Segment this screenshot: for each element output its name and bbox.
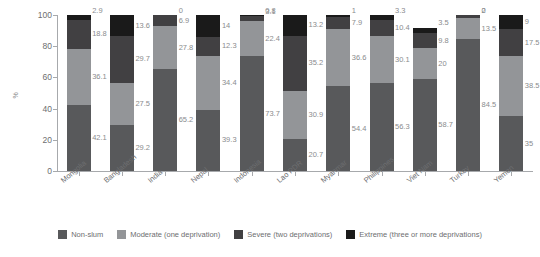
bar-value-label: 22.4 [265, 35, 280, 43]
y-tick-80: 80 [43, 42, 52, 51]
bars-layer: 42.136.118.82.929.227.529.713.665.227.86… [57, 15, 533, 171]
bar-segment [283, 36, 307, 91]
bar-group[interactable] [413, 15, 437, 171]
legend-swatch-icon [117, 230, 126, 239]
bar-value-label: 58.7 [438, 121, 453, 129]
bar-value-label: 12.3 [222, 42, 237, 50]
bar-value-label: 20 [438, 60, 446, 68]
bar-stack [370, 15, 394, 171]
bar-segment [283, 15, 307, 36]
bar-group[interactable] [196, 15, 220, 171]
x-tickmark [468, 172, 469, 176]
bar-segment [240, 21, 264, 56]
x-tickmark [252, 172, 253, 176]
y-tickmark-60 [53, 77, 58, 78]
bar-value-label: 56.3 [395, 123, 410, 131]
bar-value-label: 35 [525, 140, 533, 148]
bar-value-label: 13.5 [482, 25, 497, 33]
bar-group[interactable] [110, 15, 134, 171]
bar-segment [196, 15, 220, 37]
bar-segment [153, 26, 177, 69]
bar-segment [499, 56, 523, 116]
bar-value-label: 3.5 [438, 19, 448, 27]
y-tick-0: 0 [47, 167, 52, 176]
y-tick-40: 40 [43, 104, 52, 113]
x-tickmark [165, 172, 166, 176]
bar-value-label: 30.9 [309, 111, 324, 119]
bar-segment [413, 79, 437, 171]
chart-legend: Non-slumModerate (one deprivation)Severe… [0, 224, 540, 244]
x-tickmark [208, 172, 209, 176]
bar-value-label: 0 [482, 7, 486, 15]
bar-stack [240, 15, 264, 171]
bar-stack [67, 15, 91, 171]
bar-value-label: 54.4 [352, 125, 367, 133]
bar-group[interactable] [456, 15, 480, 171]
bar-value-label: 30.1 [395, 56, 410, 64]
x-tickmark [295, 172, 296, 176]
x-axis-category-labels: MongoliaBangladeshIndiaNepalIndonesiaLao… [0, 178, 540, 218]
bar-group[interactable] [499, 15, 523, 171]
bar-value-label: 9.8 [438, 37, 448, 45]
bar-segment [456, 39, 480, 171]
bar-value-label: 0.8 [265, 7, 275, 15]
legend-item[interactable]: Severe (two deprivations) [234, 230, 332, 239]
bar-group[interactable] [326, 15, 350, 171]
y-tickmark-100 [53, 15, 58, 16]
bar-segment [499, 15, 523, 29]
y-tickmark-20 [53, 140, 58, 141]
bar-value-label: 2.9 [92, 7, 102, 15]
y-tickmark-0 [53, 171, 58, 172]
bar-value-label: 29.2 [135, 144, 150, 152]
legend-item[interactable]: Moderate (one deprivation) [117, 230, 220, 239]
bar-segment [110, 15, 134, 36]
legend-item[interactable]: Non-slum [58, 230, 103, 239]
bar-value-label: 0 [179, 7, 183, 15]
bar-stack [196, 15, 220, 171]
legend-item[interactable]: Extreme (three or more deprivations) [346, 230, 482, 239]
bar-value-label: 18.8 [92, 30, 107, 38]
legend-swatch-icon [234, 230, 243, 239]
bar-value-label: 35.2 [309, 59, 324, 67]
legend-label: Non-slum [71, 230, 103, 239]
bar-segment [196, 56, 220, 110]
bar-segment [196, 110, 220, 171]
bar-segment [326, 17, 350, 29]
y-axis-tick-labels: 100806040200 [26, 15, 52, 171]
bar-segment [67, 49, 91, 105]
bar-segment [326, 86, 350, 171]
bar-group[interactable] [370, 15, 394, 171]
bar-group[interactable] [240, 15, 264, 171]
bar-value-label: 65.2 [179, 116, 194, 124]
bar-value-label: 38.5 [525, 82, 540, 90]
x-tickmark [382, 172, 383, 176]
bar-value-label: 36.1 [92, 73, 107, 81]
bar-group[interactable] [153, 15, 177, 171]
bar-stack [499, 15, 523, 171]
bar-segment [240, 56, 264, 171]
legend-swatch-icon [58, 230, 67, 239]
bar-value-label: 29.7 [135, 55, 150, 63]
bar-segment [370, 20, 394, 36]
bar-value-label: 84.5 [482, 101, 497, 109]
bar-group[interactable] [67, 15, 91, 171]
bar-group[interactable] [283, 15, 307, 171]
bar-segment [283, 91, 307, 139]
bar-value-label: 3.3 [395, 7, 405, 15]
bar-value-label: 13.6 [135, 22, 150, 30]
bar-value-label: 14 [222, 22, 230, 30]
bar-segment [413, 33, 437, 48]
bar-segment [110, 36, 134, 82]
bar-segment [456, 18, 480, 39]
bar-value-label: 27.5 [135, 100, 150, 108]
bar-value-label: 13.2 [309, 21, 324, 29]
bar-value-label: 9 [525, 18, 529, 26]
bar-value-label: 6.9 [179, 17, 189, 25]
bar-value-label: 27.8 [179, 44, 194, 52]
bar-segment [196, 37, 220, 56]
bar-value-label: 17.5 [525, 39, 540, 47]
legend-label: Extreme (three or more deprivations) [359, 230, 482, 239]
bar-segment [499, 29, 523, 56]
legend-label: Severe (two deprivations) [247, 230, 332, 239]
bar-segment [67, 20, 91, 49]
